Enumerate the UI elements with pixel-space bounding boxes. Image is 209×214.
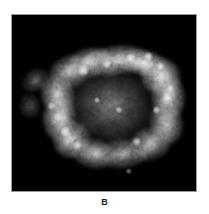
nebula-filament-texture [12,15,196,191]
nebula-image [12,15,196,191]
panel-caption: B [0,196,209,208]
figure-panel: B [0,0,209,214]
astronomical-image-plate [11,14,197,192]
